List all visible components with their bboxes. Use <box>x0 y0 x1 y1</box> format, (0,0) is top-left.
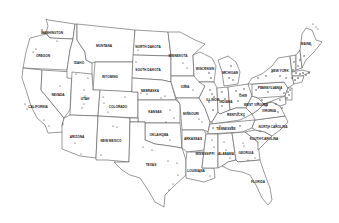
state-label: CALIFORNIA <box>28 105 48 109</box>
state-oregon <box>23 34 73 70</box>
state-label: NEW MEXICO <box>101 139 122 143</box>
state-label: NEW YORK <box>271 69 289 73</box>
state-label: FLORIDA <box>251 180 266 184</box>
state-label: MONTANA <box>96 44 113 48</box>
state-washington <box>46 19 75 39</box>
map-svg: WASHINGTONOREGONCALIFORNIANEVADAIDAHOMON… <box>0 0 339 223</box>
state-label: ILLINOIS <box>206 98 219 102</box>
state-label: KENTUCKY <box>227 113 246 117</box>
state-colorado <box>98 90 138 118</box>
state-label: MISSOURI <box>183 112 199 116</box>
state-label: TENNESSEE <box>216 127 235 131</box>
state-label: MAINE <box>301 42 311 46</box>
state-arkansas <box>182 130 206 152</box>
state-label: SOUTH DAKOTA <box>135 68 161 72</box>
state-label: GEORGIA <box>238 151 254 155</box>
state-connecticut-ri <box>292 76 304 84</box>
state-north-dakota <box>133 30 171 56</box>
state-label: ARIZONA <box>70 135 85 139</box>
state-label: KANSAS <box>148 110 161 114</box>
state-label: MISSISSIPPI <box>196 152 215 156</box>
state-label: MINNESOTA <box>169 54 189 58</box>
state-label: IDAHO <box>74 61 85 65</box>
state-label: OKLAHOMA <box>150 133 169 137</box>
state-label: NEVADA <box>51 93 65 97</box>
state-label: TEXAS <box>146 163 157 167</box>
state-outlines <box>22 19 322 207</box>
state-pennsylvania <box>252 82 288 98</box>
state-label: IOWA <box>181 85 190 89</box>
state-maine <box>300 28 322 68</box>
state-label: NORTH DAKOTA <box>135 45 161 49</box>
state-label: OREGON <box>36 54 51 58</box>
state-label: NEBRASKA <box>141 89 160 93</box>
state-label: ALABAMA <box>218 152 235 156</box>
state-label: LOUISIANA <box>187 169 205 173</box>
state-label: UTAH <box>81 97 90 101</box>
state-label: ARKANSAS <box>184 137 202 141</box>
state-label: SOUTH CAROLINA <box>250 137 280 141</box>
us-map: WASHINGTONOREGONCALIFORNIANEVADAIDAHOMON… <box>0 0 339 223</box>
state-label: NORTH CAROLINA <box>258 125 288 129</box>
state-label: VIRGINIA <box>262 109 277 113</box>
state-label: WEST VIRGINIA <box>244 103 269 107</box>
state-label: WYOMING <box>102 75 118 79</box>
state-label: COLORADO <box>109 105 128 109</box>
state-label: INDIANA <box>219 100 233 104</box>
